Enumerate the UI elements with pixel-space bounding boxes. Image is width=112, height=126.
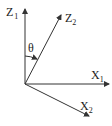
svg-text:Z1: Z1 (6, 5, 18, 21)
x1-label: X (91, 68, 100, 82)
z2-label: Z (65, 11, 72, 25)
z2-subscript: 2 (72, 18, 76, 27)
svg-text:Z2: Z2 (65, 11, 76, 27)
x2-label: X (80, 99, 89, 113)
z1-subscript: 1 (14, 12, 18, 21)
z1-label: Z (6, 5, 13, 19)
x2-subscript: 2 (89, 106, 93, 115)
theta-label: θ (28, 41, 34, 55)
svg-text:X1: X1 (91, 68, 104, 84)
theta-arc (25, 56, 37, 59)
rotation-diagram: Z1 Z2 X1 X2 θ (0, 0, 112, 126)
x1-subscript: 1 (100, 75, 104, 84)
svg-text:X2: X2 (80, 99, 93, 115)
